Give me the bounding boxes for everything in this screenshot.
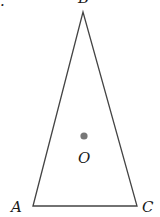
label-O: O (78, 149, 90, 167)
triangle-diagram: . B O A C (0, 0, 160, 217)
point-O-dot (80, 132, 87, 139)
corner-mark: . (0, 0, 5, 10)
triangle-ABC (33, 12, 137, 206)
label-A: A (9, 198, 22, 216)
label-B: B (77, 0, 89, 7)
label-C: C (142, 198, 154, 216)
